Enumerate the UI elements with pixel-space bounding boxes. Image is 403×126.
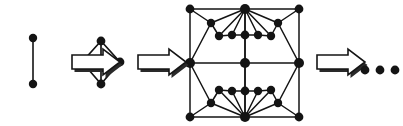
graph-node xyxy=(240,4,250,14)
graph-edge xyxy=(278,23,299,63)
graph-edge xyxy=(190,63,211,103)
graph-node xyxy=(267,32,275,40)
graph-edge xyxy=(190,23,211,63)
graph-edge xyxy=(245,9,278,23)
graph-node xyxy=(240,112,250,122)
graph-node xyxy=(241,31,250,40)
graph-node xyxy=(207,99,215,107)
graph-node xyxy=(254,87,262,95)
graph-node xyxy=(294,58,304,68)
graph-node xyxy=(215,32,223,40)
graph-edge xyxy=(278,63,299,103)
graph-node xyxy=(97,80,106,89)
graph-node xyxy=(241,87,250,96)
stage-large-square-octagon-graph xyxy=(185,4,304,122)
ellipsis-dots xyxy=(361,66,400,75)
graph-node xyxy=(295,113,304,122)
graph-node xyxy=(274,19,282,27)
graph-node xyxy=(295,5,304,14)
graph-node xyxy=(186,113,195,122)
graph-node xyxy=(207,19,215,27)
graph-node xyxy=(186,5,195,14)
arrow-2 xyxy=(138,49,189,78)
ellipsis-dot xyxy=(391,66,400,75)
graph-node xyxy=(254,31,262,39)
graph-node xyxy=(267,86,275,94)
graph-node xyxy=(29,80,37,88)
ellipsis-dot xyxy=(361,66,370,75)
graph-node xyxy=(274,99,282,107)
graph-node xyxy=(228,87,236,95)
graph-edge xyxy=(211,103,245,117)
graph-edge xyxy=(245,103,278,117)
graph-node xyxy=(97,37,106,46)
figure-canvas xyxy=(0,0,403,126)
graph-node xyxy=(215,86,223,94)
stage-single-edge-graph xyxy=(29,34,37,88)
arrow-1 xyxy=(72,49,123,78)
ellipsis-dot xyxy=(376,66,385,75)
graph-sequence-figure xyxy=(0,0,403,126)
graph-edge xyxy=(211,9,245,23)
arrow-3 xyxy=(317,49,368,78)
graph-node xyxy=(240,58,250,68)
graph-node xyxy=(29,34,37,42)
graph-node xyxy=(228,31,236,39)
